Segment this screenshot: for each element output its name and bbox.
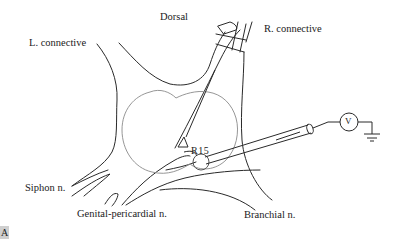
label-voltmeter: V xyxy=(345,117,352,126)
genital-nerve-3 xyxy=(126,170,260,205)
label-branchial-nerve: Branchial n. xyxy=(244,210,295,221)
ganglion-body-outline xyxy=(122,90,238,173)
genital-nerve-1 xyxy=(105,193,118,206)
left-connective-outline xyxy=(72,44,117,186)
right-connective-outer xyxy=(241,52,272,200)
connective-tie xyxy=(218,22,237,34)
label-dorsal: Dorsal xyxy=(160,12,188,23)
branchial-nerve-lower xyxy=(160,189,255,210)
recording-electrode xyxy=(205,122,340,164)
ground-icon xyxy=(364,134,380,141)
genital-nerve-2 xyxy=(122,156,190,205)
label-genital-pericardial-nerve: Genital-pericardial n. xyxy=(77,209,167,220)
panel-label: A xyxy=(0,226,9,239)
label-r15: R15 xyxy=(191,146,209,156)
label-left-connective: L. connective xyxy=(29,38,86,49)
dorsal-notch-outline xyxy=(119,32,225,85)
label-siphon-nerve: Siphon n. xyxy=(25,183,65,194)
label-right-connective: R. connective xyxy=(264,24,322,35)
